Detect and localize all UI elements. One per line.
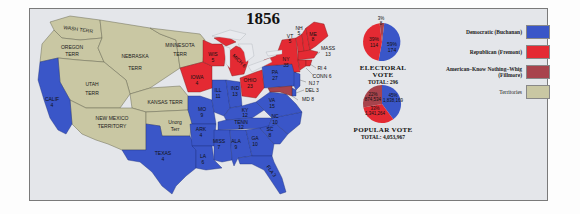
svg-text:6: 6 — [202, 159, 205, 165]
legend-label-line2: (Fillmore) — [498, 72, 522, 78]
svg-text:5: 5 — [298, 30, 301, 36]
svg-text:13: 13 — [325, 51, 331, 57]
svg-text:TERR: TERR — [85, 90, 99, 96]
svg-text:TERR: TERR — [173, 51, 187, 57]
state-fla — [238, 156, 286, 194]
electoral-vote-label: ELECTORAL VOTE — [352, 65, 414, 79]
svg-text:174: 174 — [388, 47, 397, 53]
legend-item-democratic: Democratic (Buchanan) — [466, 25, 550, 39]
svg-text:4: 4 — [51, 102, 54, 108]
svg-text:8: 8 — [312, 36, 315, 42]
state-mass — [298, 50, 318, 60]
map-title: 1856 — [246, 9, 280, 29]
svg-text:12: 12 — [242, 112, 248, 118]
svg-text:8: 8 — [269, 132, 272, 138]
svg-text:KANSAS TERR: KANSAS TERR — [147, 99, 183, 105]
legend-swatch-territories — [526, 85, 550, 99]
svg-text:9: 9 — [235, 144, 238, 150]
svg-text:10: 10 — [252, 141, 258, 147]
svg-text:RI 4: RI 4 — [317, 65, 326, 71]
svg-text:874,534: 874,534 — [365, 97, 382, 102]
legend-label: Territories — [499, 89, 522, 95]
svg-text:DEL 3: DEL 3 — [305, 87, 319, 93]
svg-text:NEBRASKA: NEBRASKA — [121, 53, 149, 59]
svg-text:UTAH: UTAH — [85, 81, 99, 87]
popular-vote-pie: 22% 874,534 45% 1,838,169 33% 1,341,264 — [363, 85, 404, 123]
svg-text:7: 7 — [218, 144, 221, 150]
svg-text:TERR: TERR — [128, 65, 142, 71]
state-nj — [294, 72, 300, 90]
svg-text:15: 15 — [269, 103, 275, 109]
svg-text:Unorg: Unorg — [168, 119, 182, 125]
svg-text:MINNESOTA: MINNESOTA — [165, 42, 195, 48]
legend-swatch-american — [526, 65, 550, 79]
svg-text:CONN 6: CONN 6 — [313, 73, 332, 79]
svg-text:Terr: Terr — [171, 126, 180, 132]
svg-text:OREGON: OREGON — [61, 44, 84, 50]
state-pa — [262, 64, 296, 88]
svg-text:10: 10 — [272, 119, 278, 125]
popular-vote-total: TOTAL: 4,053,967 — [350, 134, 416, 141]
legend-label: Democratic (Buchanan) — [466, 29, 522, 35]
svg-text:4: 4 — [196, 80, 199, 86]
svg-text:11: 11 — [215, 93, 220, 99]
svg-text:MD 8: MD 8 — [302, 96, 314, 102]
svg-text:114: 114 — [370, 42, 378, 48]
legend-item-american: American–Know Nothing–Whig (Fillmore) — [446, 65, 550, 79]
electoral-vote-caption: ELECTORAL VOTE TOTAL: 296 — [352, 65, 414, 86]
svg-text:12: 12 — [238, 124, 244, 130]
svg-text:TERR: TERR — [65, 51, 79, 57]
legend-swatch-republican — [526, 45, 550, 59]
svg-text:5: 5 — [212, 57, 215, 63]
svg-text:4: 4 — [200, 132, 203, 138]
svg-text:27: 27 — [272, 75, 278, 81]
svg-text:13: 13 — [232, 91, 238, 97]
svg-text:TERRITORY: TERRITORY — [98, 123, 127, 129]
legend-label: American–Know Nothing–Whig (Fillmore) — [446, 66, 522, 78]
svg-text:4: 4 — [162, 156, 165, 162]
svg-text:35: 35 — [283, 62, 289, 68]
svg-text:1,838,169: 1,838,169 — [383, 98, 404, 103]
svg-text:23: 23 — [247, 83, 253, 89]
state-ri — [306, 60, 312, 66]
legend-item-territories: Territories — [499, 85, 550, 99]
electoral-vote-pie: 39% 114 59% 174 3% 8 — [363, 16, 400, 61]
popular-vote-caption: POPULAR VOTE TOTAL: 4,053,967 — [350, 127, 416, 141]
legend-item-republican: Republican (Fremont) — [470, 45, 550, 59]
svg-text:9: 9 — [201, 112, 204, 118]
legend-label: Republican (Fremont) — [470, 49, 522, 55]
electoral-vote-total: TOTAL: 296 — [352, 79, 414, 86]
svg-text:1,341,264: 1,341,264 — [365, 111, 386, 116]
svg-text:NEW MEXICO: NEW MEXICO — [96, 115, 129, 121]
svg-text:5: 5 — [289, 38, 292, 44]
popular-vote-label: POPULAR VOTE — [350, 127, 416, 134]
legend-swatch-democratic — [526, 25, 550, 39]
svg-text:NJ 7: NJ 7 — [309, 80, 320, 86]
